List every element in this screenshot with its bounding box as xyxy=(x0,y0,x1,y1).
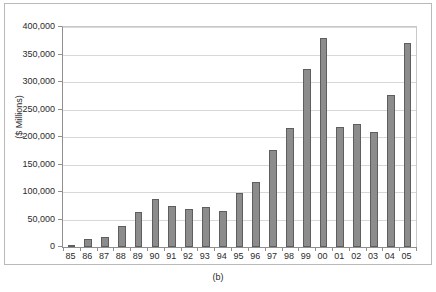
x-tick-mark xyxy=(332,247,333,251)
y-tick-mark xyxy=(58,81,62,82)
bar xyxy=(219,211,227,247)
y-tick-label: 250,000 xyxy=(0,104,55,114)
bar xyxy=(320,38,328,247)
bar xyxy=(303,69,311,247)
y-tick-mark xyxy=(58,136,62,137)
x-tick-mark xyxy=(181,247,182,251)
x-tick-label: 90 xyxy=(149,251,159,261)
bar xyxy=(202,207,210,247)
bar xyxy=(185,209,193,248)
x-tick-label: 02 xyxy=(351,251,361,261)
bar xyxy=(353,124,361,247)
y-tick-mark xyxy=(58,246,62,247)
x-tick-mark xyxy=(315,247,316,251)
bar xyxy=(168,206,176,247)
x-tick-mark xyxy=(298,247,299,251)
x-tick-mark xyxy=(416,247,417,251)
y-tick-label: 50,000 xyxy=(0,214,55,224)
x-tick-label: 87 xyxy=(99,251,109,261)
bar xyxy=(370,132,378,248)
x-tick-label: 96 xyxy=(250,251,260,261)
x-tick-label: 92 xyxy=(183,251,193,261)
x-tick-mark xyxy=(265,247,266,251)
y-tick-label: 100,000 xyxy=(0,186,55,196)
x-tick-label: 01 xyxy=(334,251,344,261)
x-tick-mark xyxy=(366,247,367,251)
x-tick-mark xyxy=(113,247,114,251)
gridline xyxy=(63,137,416,138)
x-tick-label: 03 xyxy=(368,251,378,261)
bar xyxy=(118,226,126,247)
bar xyxy=(236,193,244,247)
x-tick-mark xyxy=(147,247,148,251)
x-tick-label: 86 xyxy=(82,251,92,261)
y-tick-mark xyxy=(58,26,62,27)
x-tick-label: 05 xyxy=(402,251,412,261)
x-tick-mark xyxy=(80,247,81,251)
y-tick-label: 400,000 xyxy=(0,21,55,31)
bar xyxy=(152,199,160,247)
plot-area xyxy=(62,26,417,248)
y-tick-mark xyxy=(58,191,62,192)
x-tick-mark xyxy=(197,247,198,251)
x-tick-label: 97 xyxy=(267,251,277,261)
x-tick-mark xyxy=(130,247,131,251)
x-tick-label: 85 xyxy=(65,251,75,261)
figure-caption: (b) xyxy=(0,272,436,282)
gridline xyxy=(63,82,416,83)
x-tick-label: 93 xyxy=(200,251,210,261)
y-tick-mark xyxy=(58,109,62,110)
x-tick-label: 88 xyxy=(116,251,126,261)
x-tick-mark xyxy=(214,247,215,251)
bar xyxy=(404,43,412,247)
y-tick-label: 300,000 xyxy=(0,76,55,86)
gridline xyxy=(63,27,416,28)
bar xyxy=(286,128,294,247)
bar xyxy=(68,245,76,247)
x-tick-mark xyxy=(164,247,165,251)
x-tick-mark xyxy=(349,247,350,251)
y-tick-label: 0 xyxy=(0,241,55,251)
bar-chart-figure: ($ Millions) 050,000100,000150,000200,00… xyxy=(0,0,436,292)
bar xyxy=(252,182,260,247)
x-tick-mark xyxy=(97,247,98,251)
y-tick-label: 150,000 xyxy=(0,159,55,169)
gridline xyxy=(63,110,416,111)
y-tick-mark xyxy=(58,54,62,55)
y-tick-label: 350,000 xyxy=(0,49,55,59)
bar xyxy=(101,237,109,247)
x-tick-mark xyxy=(248,247,249,251)
x-tick-label: 89 xyxy=(133,251,143,261)
x-tick-label: 00 xyxy=(318,251,328,261)
bar xyxy=(269,150,277,247)
x-tick-mark xyxy=(399,247,400,251)
y-tick-mark xyxy=(58,164,62,165)
gridline xyxy=(63,55,416,56)
x-tick-label: 91 xyxy=(166,251,176,261)
x-tick-mark xyxy=(282,247,283,251)
x-tick-label: 94 xyxy=(217,251,227,261)
x-tick-label: 95 xyxy=(233,251,243,261)
x-tick-label: 99 xyxy=(301,251,311,261)
x-tick-mark xyxy=(231,247,232,251)
x-tick-label: 04 xyxy=(385,251,395,261)
x-tick-mark xyxy=(382,247,383,251)
x-tick-label: 98 xyxy=(284,251,294,261)
gridline xyxy=(63,165,416,166)
y-tick-mark xyxy=(58,219,62,220)
bar xyxy=(135,212,143,247)
bar xyxy=(336,127,344,247)
y-tick-label: 200,000 xyxy=(0,131,55,141)
x-tick-mark xyxy=(63,247,64,251)
bar xyxy=(387,95,395,247)
bar xyxy=(84,239,92,247)
